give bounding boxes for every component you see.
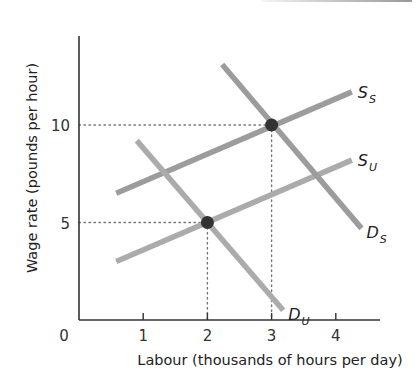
dotted-guides xyxy=(79,125,272,320)
x-tick-label-0: 0 xyxy=(59,327,69,345)
label-d-u: DU xyxy=(288,305,309,328)
equilibrium-skilled xyxy=(265,119,278,132)
x-tick-label-1: 1 xyxy=(138,327,148,345)
x-tick-label-4: 4 xyxy=(331,327,341,345)
label-d-s: DS xyxy=(366,223,386,246)
equilibrium-points xyxy=(201,119,278,230)
curve-labels: SSSUDSDU xyxy=(288,83,387,328)
x-axis-title: Labour (thousands of hours per day) xyxy=(137,352,402,368)
x-tick-label-3: 3 xyxy=(267,327,277,345)
y-axis-title: Wage rate (pounds per hour) xyxy=(24,63,40,273)
labour-market-chart: 01234510 SSSUDSDU Labour (thousands of h… xyxy=(0,0,417,389)
axes xyxy=(79,36,380,320)
curve-d-s xyxy=(222,65,361,229)
curves xyxy=(116,65,361,311)
equilibrium-unskilled xyxy=(201,216,214,229)
x-tick-label-2: 2 xyxy=(203,327,213,345)
label-s-u: SU xyxy=(358,151,377,174)
y-tick-label-10: 10 xyxy=(51,117,70,135)
label-s-s: SS xyxy=(358,83,376,106)
y-tick-label-5: 5 xyxy=(60,215,70,233)
